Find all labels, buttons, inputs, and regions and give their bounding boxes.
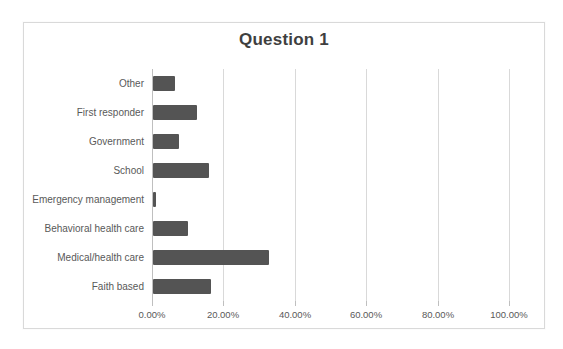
x-axis-tick-label: 100.00% <box>490 309 528 320</box>
x-axis-tick <box>223 301 224 306</box>
bar <box>153 76 175 91</box>
bar <box>153 250 269 265</box>
x-axis-tick <box>509 301 510 306</box>
category-label: Medical/health care <box>24 252 144 264</box>
gridline <box>509 69 510 301</box>
category-label: Emergency management <box>24 194 144 206</box>
x-axis-tick-label: 20.00% <box>207 309 239 320</box>
category-label: Other <box>24 78 144 90</box>
x-axis-tick-label: 0.00% <box>139 309 166 320</box>
category-label: Government <box>24 136 144 148</box>
x-axis-tick <box>438 301 439 306</box>
bar <box>153 279 211 294</box>
category-label: First responder <box>24 107 144 119</box>
bar <box>153 192 156 207</box>
x-axis-tick <box>366 301 367 306</box>
bar <box>153 221 188 236</box>
plot-area <box>152 69 509 301</box>
bar <box>153 134 179 149</box>
chart-frame: Question 1 OtherFirst responderGovernmen… <box>23 22 545 329</box>
category-label: Behavioral health care <box>24 223 144 235</box>
gridline <box>295 69 296 301</box>
gridline <box>438 69 439 301</box>
x-axis-tick <box>295 301 296 306</box>
bar <box>153 105 197 120</box>
bar <box>153 163 209 178</box>
x-axis-tick-label: 40.00% <box>279 309 311 320</box>
category-label: Faith based <box>24 281 144 293</box>
category-label: School <box>24 165 144 177</box>
chart-title: Question 1 <box>24 30 544 50</box>
gridline <box>223 69 224 301</box>
gridline <box>366 69 367 301</box>
x-axis-tick-label: 60.00% <box>350 309 382 320</box>
x-axis-tick-label: 80.00% <box>422 309 454 320</box>
